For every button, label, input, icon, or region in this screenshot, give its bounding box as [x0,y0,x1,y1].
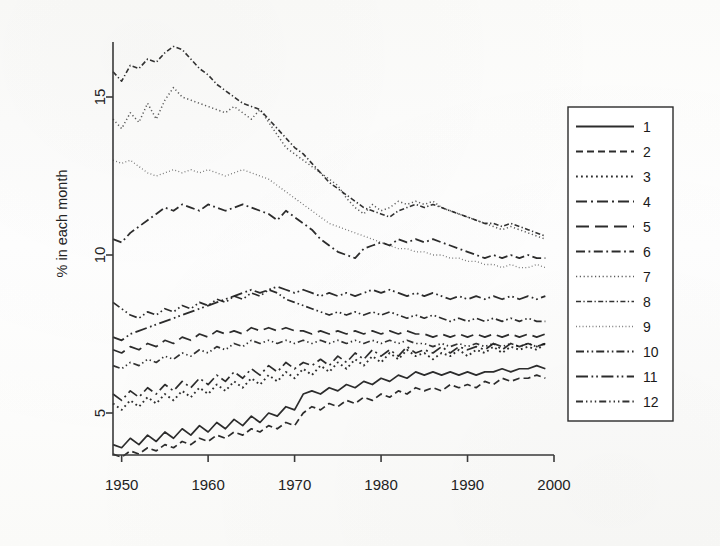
chart-figure: 51015% in each month19501960197019801990… [0,0,720,546]
series-line-4 [113,343,545,400]
y-axis-title: % in each month [54,169,70,277]
x-tick-label: 1960 [191,476,224,493]
legend-label-3: 3 [643,169,651,185]
series-line-6 [113,204,545,258]
legend-label-10: 10 [643,344,659,360]
x-tick-label: 1970 [278,476,311,493]
legend-label-5: 5 [643,219,651,235]
series-line-10 [113,290,545,322]
legend-label-11: 11 [643,369,658,385]
y-tick-label: 15 [91,89,108,106]
legend-label-1: 1 [643,119,651,135]
legend-label-7: 7 [643,269,651,285]
x-tick-label: 1980 [364,476,397,493]
legend-label-12: 12 [643,394,659,410]
series-line-1 [113,366,545,448]
line-chart-plot: 51015% in each month19501960197019801990… [0,0,720,546]
series-line-11 [113,287,545,341]
x-tick-label: 1990 [451,476,484,493]
legend-label-6: 6 [643,244,651,260]
legend-layer: 123456789101112 [568,107,673,421]
series-line-5 [113,328,545,353]
legend-label-4: 4 [643,194,651,210]
legend-label-9: 9 [643,319,651,335]
x-tick-label: 1950 [105,476,138,493]
series-layer [113,46,545,457]
legend-label-2: 2 [643,144,651,160]
legend-label-8: 8 [643,294,651,310]
axis-layer: 51015% in each month19501960197019801990… [54,42,571,493]
series-line-7 [113,88,545,240]
y-tick-label: 10 [91,247,108,264]
y-tick-label: 5 [91,409,108,417]
series-line-3 [113,343,545,409]
x-tick-label: 2000 [537,476,570,493]
series-line-9 [113,160,545,267]
